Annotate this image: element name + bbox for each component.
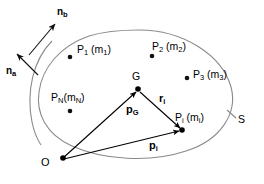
label-point-PN: PN(mN) <box>51 92 85 104</box>
label-n-a: na <box>6 66 16 77</box>
dot-G <box>135 86 141 92</box>
dot-P2 <box>150 54 155 59</box>
label-vector-pi: pi <box>149 140 158 152</box>
label-origin-O: O <box>41 157 50 168</box>
label-point-Pi: Pi (mi) <box>175 112 204 124</box>
vector-pi-arrow <box>64 131 179 159</box>
rigid-body-diagram: nb na P1 (m1) P2 (m2) P3 (m3) PN(mN) Pi … <box>0 0 264 184</box>
dot-O <box>60 155 66 161</box>
label-point-P1: P1 (m1) <box>77 44 111 56</box>
dot-P1 <box>68 55 73 60</box>
dot-PN <box>68 109 73 114</box>
dot-P3 <box>185 76 190 81</box>
diagram-canvas <box>0 0 264 184</box>
dot-Pi <box>179 127 185 133</box>
label-point-P2: P2 (m2) <box>152 41 186 53</box>
label-n-b: nb <box>57 7 68 18</box>
label-vector-ri: ri <box>159 93 165 105</box>
label-centroid-G: G <box>132 71 140 82</box>
normal-vector-nb <box>29 24 55 55</box>
label-point-P3: P3 (m3) <box>193 69 227 81</box>
label-surface-S: S <box>238 114 245 125</box>
normal-vector-na <box>17 54 38 75</box>
label-vector-pG: pG <box>126 104 139 116</box>
